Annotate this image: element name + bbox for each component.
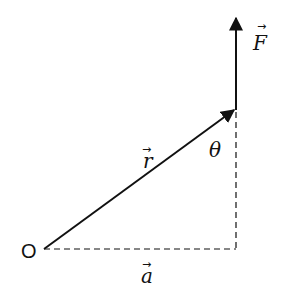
a-label: a <box>141 264 153 288</box>
a-vector-label: → a <box>141 258 153 288</box>
F-label: F <box>252 31 268 55</box>
r-label: r <box>143 149 154 173</box>
F-vector-label: → F <box>252 20 268 55</box>
r-vector-arrow <box>44 110 234 249</box>
r-vector-label: → r <box>142 143 154 173</box>
theta-label: θ <box>209 138 221 162</box>
origin-label: O <box>21 240 37 262</box>
torque-vector-diagram: O → r → F θ → a <box>0 0 285 306</box>
